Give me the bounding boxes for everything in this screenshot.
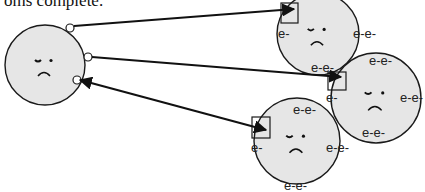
caption-text: oms complete.: [4, 0, 103, 11]
electron-label: e-: [326, 90, 338, 105]
atoms-layer: e-e-e-e-e-e-e-e-e-e-e-e-e-e-e-e-e-e-e-: [5, 0, 423, 192]
valence-electron-marker: [84, 53, 92, 61]
electron-transfer-diagram: e-e-e-e-e-e-e-e-e-e-e-e-e-e-e-e-e-e-e-: [0, 0, 425, 192]
electron-label: e-e-: [353, 26, 376, 41]
electron-label: e-e-: [400, 90, 423, 105]
arrow-to-top-right: [74, 9, 294, 26]
atom-circle: [5, 25, 85, 105]
valence-electron-marker: [66, 24, 74, 32]
electron-label: e-: [251, 140, 263, 155]
arrow-to-bottom: [80, 80, 266, 130]
electron-label: e-e-: [326, 140, 349, 155]
electron-label: e-: [278, 26, 290, 41]
central-atom: [5, 24, 92, 105]
electron-label: e-e-: [311, 60, 334, 75]
electron-label: e-e-: [369, 53, 392, 68]
electron-label: e-e-: [362, 125, 385, 140]
valence-electron-marker: [73, 76, 81, 84]
electron-label: e-e-: [284, 178, 307, 192]
diagram-canvas: oms complete. e-e-e-e-e-e-e-e-e-e-e-e-e-…: [0, 0, 425, 192]
electron-label: e-e-: [293, 102, 316, 117]
